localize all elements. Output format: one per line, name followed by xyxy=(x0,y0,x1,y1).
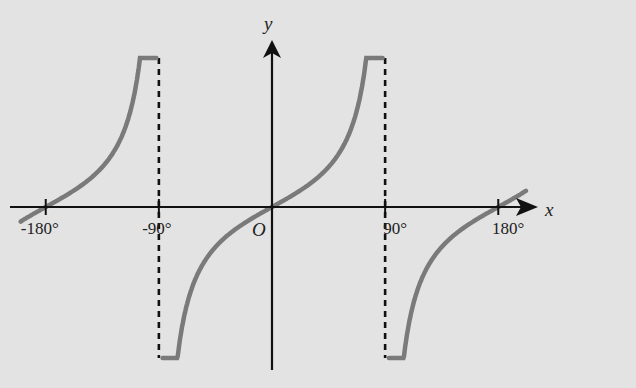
x-tick-label: 90° xyxy=(383,219,407,238)
origin-label: O xyxy=(252,219,266,240)
y-axis-label: y xyxy=(262,13,273,34)
tan-graph: -180°-90°90°180° x y O xyxy=(0,0,636,388)
x-tick-label: -180° xyxy=(21,219,59,238)
x-tick-label: -90° xyxy=(142,219,171,238)
tan-curve-branch xyxy=(389,191,526,358)
x-tick-label: 180° xyxy=(492,219,524,238)
tan-curve-branch xyxy=(21,58,157,222)
x-axis-label: x xyxy=(544,199,554,220)
